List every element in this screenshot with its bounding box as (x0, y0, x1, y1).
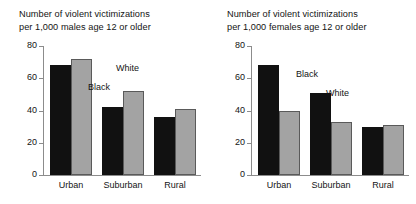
y-tick-label: 80 (235, 40, 245, 50)
chart-title-males-line1: Number of violent victimizations (19, 9, 150, 19)
y-tick-mark (39, 111, 43, 112)
x-label-suburban-males: Suburban (102, 180, 144, 190)
bars-females: Urban Suburban Rural (252, 46, 409, 175)
bar-suburban-white-females[interactable] (331, 122, 352, 175)
series-annotation-black-females: Black (296, 69, 318, 79)
y-tick-0-males: 0 (43, 175, 47, 176)
bar-suburban-black-males[interactable] (102, 107, 123, 175)
chart-panel-females: Number of violent victimizations per 1,0… (208, 0, 416, 204)
series-annotation-white-females: White (326, 88, 349, 98)
y-tick-mark (39, 143, 43, 144)
y-tick-label: 0 (32, 169, 37, 179)
bar-group-rural-females: Rural (362, 46, 404, 175)
y-tick-0-females: 0 (251, 175, 255, 176)
chart-title-females: Number of violent victimizations per 1,0… (227, 8, 367, 33)
y-tick-mark (247, 78, 251, 79)
x-axis-line-females (251, 175, 409, 176)
y-tick-mark (247, 175, 251, 176)
bar-urban-white-males[interactable] (71, 59, 92, 175)
bar-urban-black-males[interactable] (50, 65, 71, 175)
y-tick-mark (39, 175, 43, 176)
x-label-urban-males: Urban (50, 180, 92, 190)
x-label-urban-females: Urban (258, 180, 300, 190)
y-tick-label: 40 (235, 105, 245, 115)
y-tick-mark (247, 46, 251, 47)
y-tick-label: 60 (27, 72, 37, 82)
y-tick-mark (39, 78, 43, 79)
y-tick-mark (39, 46, 43, 47)
bar-rural-white-females[interactable] (383, 125, 404, 175)
series-annotation-white-males: White (116, 63, 139, 73)
bar-urban-black-females[interactable] (258, 65, 279, 175)
bar-rural-black-females[interactable] (362, 127, 383, 175)
bar-rural-white-males[interactable] (175, 109, 196, 175)
plot-area-females: 80 60 40 20 0 (251, 46, 409, 175)
chart-title-females-line2: per 1,000 females age 12 or older (227, 21, 367, 34)
bar-group-suburban-females: Suburban (310, 46, 352, 175)
y-tick-label: 0 (240, 169, 245, 179)
bar-rural-black-males[interactable] (154, 117, 175, 175)
series-annotation-black-males: Black (88, 82, 110, 92)
bar-group-rural-males: Rural (154, 46, 196, 175)
y-tick-label: 80 (27, 40, 37, 50)
x-label-rural-males: Rural (154, 180, 196, 190)
y-tick-mark (247, 143, 251, 144)
y-tick-label: 20 (235, 137, 245, 147)
y-tick-label: 40 (27, 105, 37, 115)
bar-suburban-black-females[interactable] (310, 93, 331, 175)
y-tick-mark (247, 111, 251, 112)
chart-title-females-line1: Number of violent victimizations (227, 9, 358, 19)
bar-group-urban-males: Urban (50, 46, 92, 175)
bar-group-urban-females: Urban (258, 46, 300, 175)
bar-suburban-white-males[interactable] (123, 91, 144, 175)
x-label-rural-females: Rural (362, 180, 404, 190)
chart-title-males-line2: per 1,000 males age 12 or older (19, 21, 151, 34)
chart-title-males: Number of violent victimizations per 1,0… (19, 8, 151, 33)
x-axis-line-males (43, 175, 201, 176)
x-label-suburban-females: Suburban (310, 180, 352, 190)
bar-urban-white-females[interactable] (279, 111, 300, 176)
y-tick-label: 60 (235, 72, 245, 82)
y-tick-label: 20 (27, 137, 37, 147)
chart-page: Number of violent victimizations per 1,0… (0, 0, 416, 204)
chart-panel-males: Number of violent victimizations per 1,0… (0, 0, 208, 204)
